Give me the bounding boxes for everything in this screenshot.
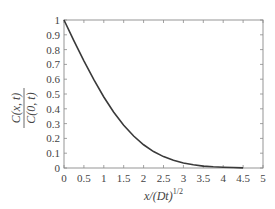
y-tick-label: 0.4 [46,103,60,115]
erfc-curve [64,20,243,168]
x-tick-label: 4.5 [236,172,250,184]
y-tick-label: 0.8 [46,44,60,56]
y-tick-label: 0 [55,162,61,174]
y-tick-label: 0.9 [46,29,60,41]
x-tick-label: 5 [260,172,266,184]
y-axis-label: C(x, t) C(0, t) [9,88,38,128]
y-label-denominator: C(0, t) [24,92,38,123]
svg-text:x/(Dt)1/2: x/(Dt)1/2 [143,187,183,203]
x-tick-label: 0.5 [77,172,91,184]
x-axis-label: x/(Dt)1/2 [143,187,183,203]
y-tick-label: 0.1 [46,147,60,159]
plot-frame [64,20,263,168]
x-tick-label: 2.5 [157,172,171,184]
x-tick-label: 3.5 [196,172,210,184]
y-label-numerator: C(x, t) [9,93,23,124]
concentration-profile-chart: 00.10.20.30.40.50.60.70.80.91 00.511.522… [0,0,275,209]
y-tick-label: 1 [55,14,61,26]
y-tick-label: 0.6 [46,73,60,85]
y-tick-label: 0.5 [46,88,60,100]
plot-border [64,20,263,168]
y-tick-label: 0.7 [46,58,60,70]
x-tick-label: 4 [220,172,226,184]
y-tick-label: 0.2 [46,132,60,144]
x-tick-label: 2 [141,172,147,184]
x-tick-label: 3 [181,172,187,184]
x-axis-ticks: 00.511.522.533.544.55 [61,20,266,184]
x-tick-label: 1 [101,172,107,184]
y-tick-label: 0.3 [46,118,60,130]
x-label-sup: 1/2 [173,187,183,196]
y-axis-ticks: 00.10.20.30.40.50.60.70.80.91 [46,14,263,174]
x-tick-label: 0 [61,172,67,184]
x-label-main: x/(Dt) [143,189,173,203]
x-tick-label: 1.5 [117,172,131,184]
